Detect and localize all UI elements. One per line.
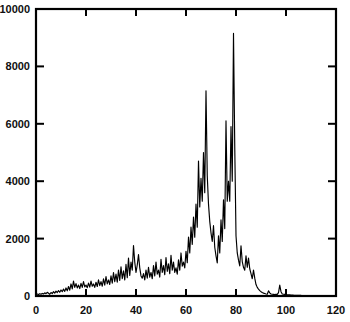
spectrum-line — [36, 33, 301, 295]
figure: 020406080100120 0200040006000800010000 — [0, 0, 350, 322]
y-tick-label: 6000 — [6, 118, 30, 130]
x-tick-label: 0 — [33, 304, 39, 316]
y-tick-label: 4000 — [6, 175, 30, 187]
y-tick-label: 8000 — [6, 60, 30, 72]
x-axis-tick-labels: 020406080100120 — [33, 304, 345, 316]
y-tick-label: 0 — [24, 290, 30, 302]
spectrum-chart: 020406080100120 0200040006000800010000 — [0, 0, 350, 322]
x-tick-label: 80 — [230, 304, 242, 316]
y-axis-tick-labels: 0200040006000800010000 — [0, 3, 30, 302]
x-tick-label: 60 — [180, 304, 192, 316]
y-tick-label: 10000 — [0, 3, 30, 15]
x-tick-label: 120 — [327, 304, 345, 316]
data-series-group — [36, 33, 301, 295]
x-tick-label: 40 — [130, 304, 142, 316]
y-tick-label: 2000 — [6, 233, 30, 245]
x-tick-label: 100 — [277, 304, 295, 316]
x-tick-label: 20 — [80, 304, 92, 316]
